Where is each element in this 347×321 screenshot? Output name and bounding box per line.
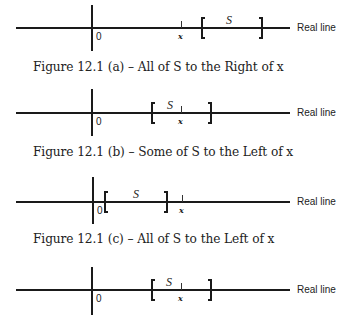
real-line-label: Real line bbox=[297, 284, 336, 295]
set-left-bracket bbox=[151, 279, 155, 301]
figure-panel-d: 0 x S Real line bbox=[0, 0, 347, 321]
zero-label: 0 bbox=[96, 293, 102, 304]
x-label: x bbox=[178, 293, 183, 303]
set-label: S bbox=[166, 275, 172, 290]
origin-line bbox=[91, 267, 93, 315]
x-tick bbox=[181, 283, 182, 290]
set-right-bracket bbox=[208, 279, 212, 301]
